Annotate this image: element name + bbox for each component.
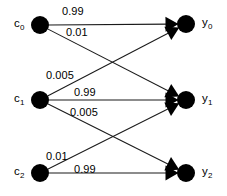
node-label-c2: c2 — [14, 166, 24, 178]
node-c1 — [31, 91, 49, 109]
node-y0 — [177, 15, 195, 33]
node-label-subscript-y2: 2 — [208, 171, 212, 180]
node-label-subscript-c2: 2 — [20, 171, 24, 180]
node-y1 — [177, 91, 195, 109]
node-label-base-y0: y — [202, 16, 208, 28]
edge-weight-label-c2-y1: 0.01 — [46, 151, 68, 162]
node-label-base-y2: y — [202, 165, 208, 177]
node-label-subscript-y1: 1 — [208, 98, 212, 107]
edge-weight-label-c0-y0: 0.99 — [62, 6, 84, 17]
node-c0 — [31, 16, 49, 34]
edge-c1-y0 — [48, 32, 171, 96]
edge-weight-label-c1-y0: 0.005 — [46, 70, 74, 81]
edge-weight-label-c0-y1: 0.01 — [66, 27, 88, 38]
arrowhead-c1-y0 — [164, 27, 179, 40]
node-label-base-c1: c — [14, 92, 20, 104]
edge-weight-label-c1-y1: 0.99 — [74, 87, 96, 98]
graph-canvas — [0, 0, 227, 196]
edge-c0-y1 — [48, 29, 171, 92]
arrowheads-group — [164, 17, 179, 181]
node-label-subscript-y0: 0 — [208, 22, 212, 31]
node-label-base-c2: c — [14, 165, 20, 177]
node-label-subscript-c0: 0 — [20, 23, 24, 32]
edge-weight-label-c1-y2: 0.005 — [70, 107, 98, 118]
node-label-c1: c1 — [14, 93, 24, 105]
edge-c0-y0 — [49, 24, 169, 25]
node-label-base-c0: c — [14, 17, 20, 29]
node-label-base-y1: y — [202, 92, 208, 104]
edge-weight-label-c2-y2: 0.99 — [74, 164, 96, 175]
node-label-subscript-c1: 1 — [20, 98, 24, 107]
node-c2 — [31, 164, 49, 182]
node-y2 — [177, 164, 195, 182]
node-label-c0: c0 — [14, 18, 24, 30]
node-label-y0: y0 — [202, 17, 212, 29]
channel-diagram: c0c1c2y0y1y2 0.990.010.0050.990.0050.010… — [0, 0, 227, 196]
node-label-y2: y2 — [202, 166, 212, 178]
node-label-y1: y1 — [202, 93, 212, 105]
